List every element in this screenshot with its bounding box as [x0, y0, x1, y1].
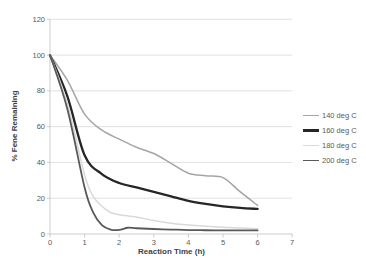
- line-chart: 02040608010012001234567 % Fene Remaining…: [0, 0, 366, 269]
- y-tick-label: 120: [32, 15, 45, 24]
- legend-item: 140 deg C: [303, 108, 365, 123]
- y-tick-label: 80: [37, 86, 45, 95]
- x-tick-label: 4: [186, 238, 190, 247]
- series-line-140-deg-c: [50, 55, 258, 205]
- x-tick-label: 1: [83, 238, 87, 247]
- y-tick-label: 20: [37, 194, 45, 203]
- legend-line-swatch: [303, 160, 319, 162]
- x-tick-label: 0: [48, 238, 52, 247]
- legend: 140 deg C160 deg C180 deg C200 deg C: [303, 108, 365, 168]
- y-tick-label: 100: [32, 51, 45, 60]
- legend-line-swatch: [303, 129, 319, 131]
- legend-label: 160 deg C: [322, 126, 357, 135]
- y-tick-label: 60: [37, 122, 45, 131]
- x-tick-label: 2: [117, 238, 121, 247]
- x-tick-label: 3: [152, 238, 156, 247]
- legend-line-swatch: [303, 145, 319, 147]
- legend-item: 200 deg C: [303, 153, 365, 168]
- series-line-160-deg-c: [50, 55, 258, 209]
- legend-label: 180 deg C: [322, 141, 357, 150]
- x-tick-label: 7: [290, 238, 294, 247]
- legend-item: 160 deg C: [303, 123, 365, 138]
- x-axis-title: Reaction Time (h): [50, 247, 293, 256]
- x-tick-label: 6: [256, 238, 260, 247]
- legend-line-swatch: [303, 115, 319, 117]
- y-axis-title: % Fene Remaining: [10, 19, 24, 233]
- x-tick-label: 5: [221, 238, 225, 247]
- legend-label: 200 deg C: [322, 156, 357, 165]
- legend-item: 180 deg C: [303, 138, 365, 153]
- y-tick-label: 0: [41, 230, 45, 239]
- y-tick-label: 40: [37, 158, 45, 167]
- legend-label: 140 deg C: [322, 111, 357, 120]
